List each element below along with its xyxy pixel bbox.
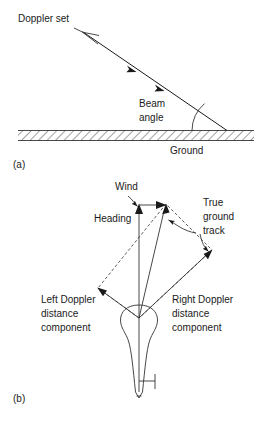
true-track-label-line2: ground: [203, 211, 234, 222]
left-doppler-label-line2: distance: [41, 308, 79, 319]
wind-vector: [139, 201, 167, 209]
left-doppler-label-line3: component: [41, 322, 91, 333]
panel-a: Doppler set Beam angle Ground (a): [13, 13, 254, 170]
doppler-navigation-figure: Doppler set Beam angle Ground (a): [0, 0, 272, 424]
beam-arrow-up-left: [83, 32, 100, 44]
beam-arrowhead-1: [126, 65, 136, 72]
true-track-label-line3: track: [203, 225, 226, 236]
doppler-set-label: Doppler set: [18, 13, 69, 24]
true-track-label-line1: True: [203, 197, 224, 208]
heading-vector: [135, 204, 143, 393]
doppler-set-leader: [74, 28, 85, 33]
ground-label: Ground: [170, 145, 203, 156]
right-doppler-label-line1: Right Doppler: [172, 294, 234, 305]
ground-hatch-fill: [18, 131, 254, 141]
ground-band: [18, 131, 254, 141]
right-doppler-label-line3: component: [172, 322, 222, 333]
wind-label: Wind: [115, 181, 138, 192]
track-shaft: [139, 211, 164, 318]
wind-leader: [128, 196, 138, 207]
beam-angle-label-line1: Beam: [139, 98, 165, 109]
true-ground-track-vector: [139, 204, 170, 319]
left-doppler-arrowhead: [97, 288, 107, 297]
panel-b: Wind Heading True ground track Left Dopp…: [13, 181, 234, 404]
left-doppler-vector: [97, 288, 139, 319]
left-doppler-shaft: [102, 291, 139, 318]
right-doppler-label-line2: distance: [172, 308, 210, 319]
true-track-leader-upper: [169, 220, 197, 233]
beam-arrowhead-2: [154, 85, 164, 92]
beam-angle-label-line2: angle: [139, 112, 164, 123]
panel-b-caption: (b): [13, 393, 25, 404]
panel-a-caption: (a): [13, 159, 25, 170]
heading-label: Heading: [94, 213, 131, 224]
left-doppler-label-line1: Left Doppler: [41, 294, 96, 305]
figure-canvas: Doppler set Beam angle Ground (a): [0, 0, 272, 424]
